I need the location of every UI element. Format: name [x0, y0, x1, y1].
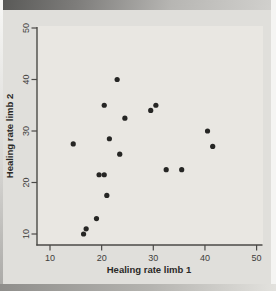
scatter-plot: 10203040501020304050 Healing rate limb 1…	[0, 0, 276, 291]
data-point	[117, 152, 122, 157]
data-point	[96, 172, 101, 177]
data-point	[153, 103, 158, 108]
data-point	[205, 128, 210, 133]
data-point	[179, 167, 184, 172]
scanned-scatterplot-figure: 10203040501020304050 Healing rate limb 1…	[0, 0, 276, 291]
data-point	[81, 231, 86, 236]
data-point	[164, 167, 169, 172]
x-tick-label: 40	[200, 253, 210, 263]
x-tick-label: 30	[148, 253, 158, 263]
plot-panel	[37, 26, 263, 245]
data-point	[94, 216, 99, 221]
data-point	[115, 77, 120, 82]
y-tick-label: 30	[21, 126, 31, 136]
data-point	[71, 141, 76, 146]
y-tick-label: 20	[21, 177, 31, 187]
data-point	[84, 226, 89, 231]
x-tick-label: 20	[97, 253, 107, 263]
data-point	[104, 193, 109, 198]
data-point	[122, 116, 127, 121]
x-tick-label: 10	[45, 253, 55, 263]
y-tick-label: 50	[21, 23, 31, 33]
data-point	[102, 172, 107, 177]
y-tick-label: 40	[21, 74, 31, 84]
data-point	[148, 108, 153, 113]
data-point	[210, 144, 215, 149]
y-tick-label: 10	[21, 229, 31, 239]
y-axis-title: Healing rate limb 2	[4, 94, 15, 178]
x-axis-title: Healing rate limb 1	[107, 264, 192, 275]
data-point	[107, 136, 112, 141]
x-tick-label: 50	[252, 253, 262, 263]
data-point	[102, 103, 107, 108]
